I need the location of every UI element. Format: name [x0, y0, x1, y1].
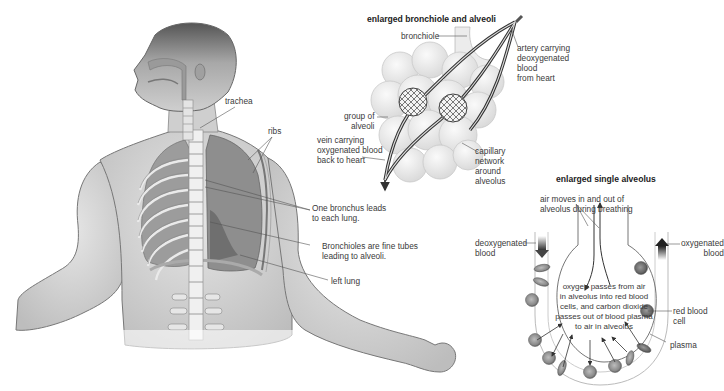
- label-bronchus-line2: to each lung.: [312, 213, 386, 223]
- label-ribs: ribs: [268, 126, 281, 136]
- deoxygenated-arrow: [538, 236, 546, 250]
- label-gas-exchange: oxygen passes from air in alveolus into …: [552, 282, 656, 332]
- label-plasma: plasma: [670, 340, 697, 350]
- label-oxy-line2: blood: [681, 248, 724, 258]
- right-arm: [16, 162, 126, 330]
- label-artery: artery carrying deoxygenated blood from …: [517, 43, 570, 83]
- label-artery-line4: from heart: [517, 73, 570, 83]
- label-rbc-line2: cell: [673, 316, 708, 326]
- label-rbc-line1: red blood: [673, 306, 708, 316]
- label-vein: vein carrying oxygenated blood back to h…: [317, 135, 383, 165]
- label-air-moves: air moves in and out of alveolus during …: [540, 194, 633, 214]
- label-bronchioles-line1: Bronchioles are fine tubes: [322, 241, 418, 251]
- label-artery-line1: artery carrying: [517, 43, 570, 53]
- label-artery-line2: deoxygenated: [517, 53, 570, 63]
- label-exchange-line4: passes out of blood plasma: [552, 312, 656, 322]
- trachea-tube: [183, 100, 193, 140]
- bronchiole-panel-title: enlarged bronchiole and alveoli: [367, 14, 496, 24]
- label-bronchus-line1: One bronchus leads: [312, 203, 386, 213]
- label-group-line2: alveoli: [344, 121, 374, 131]
- label-air-line1: air moves in and out of: [540, 194, 633, 204]
- label-trachea: trachea: [225, 96, 253, 106]
- label-deoxygenated-blood: deoxygenated blood: [475, 238, 527, 258]
- label-capillary-line3: around: [475, 166, 505, 176]
- label-bronchiole: bronchiole: [401, 31, 439, 41]
- oxygenated-arrow: [658, 246, 666, 260]
- label-deoxy-line1: deoxygenated: [475, 238, 527, 248]
- label-artery-line3: blood: [517, 63, 570, 73]
- label-red-blood-cell: red blood cell: [673, 306, 708, 326]
- label-air-line2: alveolus during breathing: [540, 204, 633, 214]
- label-capillary-line4: alveolus: [475, 176, 505, 186]
- label-capillary-line1: capillary: [475, 146, 505, 156]
- air-out-arrow: [600, 203, 610, 285]
- label-capillary-network: capillary network around alveolus: [475, 146, 505, 186]
- label-bronchioles-line2: leading to alveoli.: [322, 251, 418, 261]
- label-bronchus: One bronchus leads to each lung.: [312, 203, 386, 223]
- label-capillary-line2: network: [475, 156, 505, 166]
- label-left-lung: left lung: [331, 276, 360, 286]
- label-oxy-line1: oxygenated: [681, 238, 724, 248]
- label-group-of-alveoli: group of alveoli: [344, 111, 374, 131]
- label-bronchioles: Bronchioles are fine tubes leading to al…: [322, 241, 418, 261]
- label-vein-line2: oxygenated blood: [317, 145, 383, 155]
- alveolus-panel-title: enlarged single alveolus: [556, 174, 656, 184]
- label-vein-line1: vein carrying: [317, 135, 383, 145]
- label-exchange-line3: cells, and carbon dioxide: [552, 302, 656, 312]
- label-exchange-line1: oxygen passes from air: [552, 282, 656, 292]
- label-vein-line3: back to heart: [317, 155, 383, 165]
- label-exchange-line5: to air in alveolus: [552, 322, 656, 332]
- inflow-arrow: [516, 16, 522, 22]
- label-oxygenated-blood: oxygenated blood: [681, 238, 724, 258]
- label-deoxy-line2: blood: [475, 248, 527, 258]
- label-group-line1: group of: [344, 111, 374, 121]
- label-exchange-line2: in alveolus into red blood: [552, 292, 656, 302]
